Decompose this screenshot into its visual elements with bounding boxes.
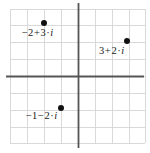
point-label-p2-imag-value: 2 — [111, 45, 116, 56]
data-points — [41, 20, 130, 111]
point-label-p1-real-value: 2 — [28, 27, 33, 38]
point-label-p1-imag-value: 3 — [40, 27, 45, 38]
point-label-p3-imag-value: 2 — [44, 110, 49, 121]
data-point-p3 — [58, 105, 64, 111]
axes — [6, 3, 144, 148]
data-point-p1 — [41, 20, 47, 26]
point-label-p2-real-value: 3 — [99, 45, 104, 56]
point-label-p2: 3+2·i — [99, 46, 124, 57]
point-label-p2-operator: + — [105, 45, 111, 56]
complex-plane-plot — [0, 0, 150, 153]
point-label-p3-real-value: 1 — [32, 110, 37, 121]
data-point-p2 — [124, 38, 130, 44]
point-label-p1-imaginary-unit: i — [50, 27, 53, 38]
point-label-p3-imaginary-unit: i — [54, 110, 57, 121]
complex-plane-figure: −2+3·i 3+2·i −1−2·i — [0, 0, 150, 153]
point-label-p1: −2+3·i — [22, 28, 53, 39]
point-label-p2-imaginary-unit: i — [121, 45, 124, 56]
point-label-p3: −1−2·i — [26, 111, 57, 122]
